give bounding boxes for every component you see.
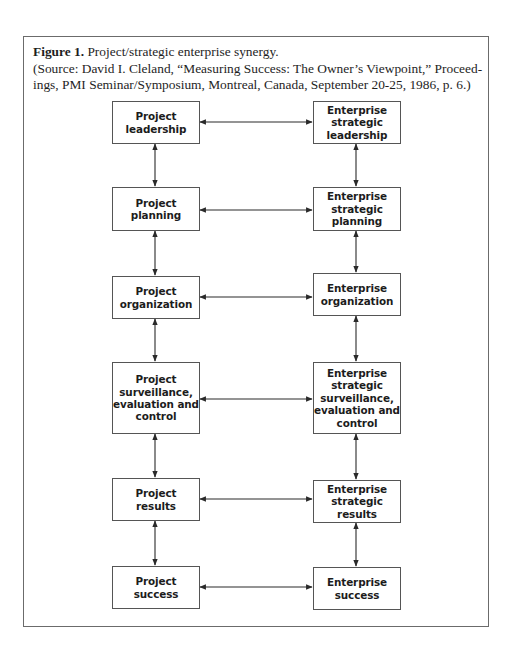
box-enterprise-strategic-surveillance: Enterprise strategic surveillance, evalu… <box>313 362 401 434</box>
box-enterprise-success: Enterprise success <box>313 567 401 610</box>
box-project-results: Project results <box>112 478 200 521</box>
box-enterprise-strategic-leadership: Enterprise strategic leadership <box>313 101 401 144</box>
box-enterprise-organization: Enterprise organization <box>313 273 401 316</box>
box-project-planning: Project planning <box>112 187 200 231</box>
box-enterprise-strategic-results: Enterprise strategic results <box>313 480 401 523</box>
box-project-success: Project success <box>112 566 200 609</box>
box-project-leadership: Project leadership <box>112 101 200 144</box>
box-enterprise-strategic-planning: Enterprise strategic planning <box>313 187 401 231</box>
box-project-surveillance: Project surveillance, evaluation and con… <box>112 362 200 434</box>
box-project-organization: Project organization <box>112 276 200 319</box>
connector-arrows <box>0 0 516 653</box>
